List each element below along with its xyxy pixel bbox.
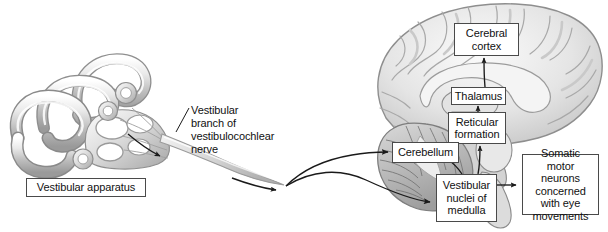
label-vestibular-branch-of-vestibulocochlear-nerve: Vestibular branch of vestibulocochlear n…: [191, 104, 303, 156]
label-thalamus: Thalamus: [451, 87, 506, 105]
label-reticular-formation: Reticular formation: [448, 112, 506, 144]
label-vestibular-nuclei-of-medulla: Vestibular nuclei of medulla: [436, 174, 497, 222]
arrow-nuclei-to-reticular: [478, 146, 480, 174]
vestibular-pathway-figure: Cerebral cortex Thalamus Reticular forma…: [0, 0, 608, 232]
label-cerebral-cortex: Cerebral cortex: [454, 23, 519, 56]
label-somatic-motor-neurons: Somatic motor neurons concerned with eye…: [522, 154, 599, 215]
arrow-thalamus-to-cortex: [484, 58, 485, 87]
label-vestibular-apparatus: Vestibular apparatus: [26, 178, 146, 197]
leader-nerve-label: [176, 108, 189, 132]
label-cerebellum: Cerebellum: [392, 142, 459, 163]
arrow-nerve-to-cerebellum: [286, 152, 388, 186]
arrow-apparatus-to-nerve: [232, 178, 276, 190]
arrow-nerve-to-vestibular-nuclei: [286, 172, 430, 202]
